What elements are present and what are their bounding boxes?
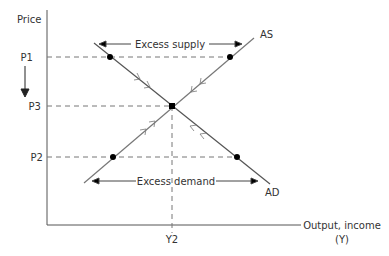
excess-demand-label: Excess demand [137, 176, 215, 187]
excess-supply-label: Excess supply [135, 39, 205, 50]
y2-label: Y2 [165, 234, 178, 245]
x-axis-label-unit: (Y) [335, 234, 349, 245]
equilibrium-point [169, 103, 175, 109]
point-p2-ad [234, 154, 240, 160]
ad-label: AD [265, 187, 280, 198]
ad-curve [94, 43, 270, 184]
p3-label: P3 [29, 101, 41, 112]
point-p1-ad [107, 54, 113, 60]
y-axis-label: Price [17, 14, 41, 25]
p2-label: P2 [31, 152, 43, 163]
x-axis-label: Output, income [303, 220, 381, 231]
ad-as-diagram: Price P1 P3 P2 Y2 AS AD Excess supply Ex… [0, 0, 389, 256]
point-p2-as [110, 154, 116, 160]
as-label: AS [260, 29, 273, 40]
point-p1-as [227, 54, 233, 60]
price-down-arrow [21, 66, 29, 97]
p1-label: P1 [21, 52, 33, 63]
